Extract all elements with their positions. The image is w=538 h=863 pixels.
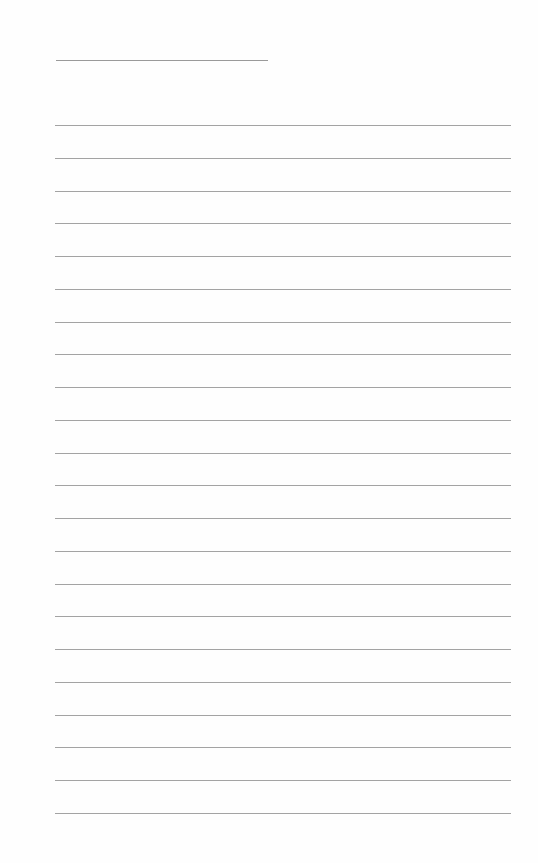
writing-line — [55, 453, 511, 454]
writing-line — [55, 813, 511, 814]
writing-line — [55, 518, 511, 519]
writing-line — [55, 125, 511, 126]
writing-line — [55, 322, 511, 323]
writing-line — [55, 191, 511, 192]
writing-line — [55, 289, 511, 290]
writing-line — [55, 616, 511, 617]
writing-line — [55, 420, 511, 421]
writing-line — [55, 223, 511, 224]
writing-line — [55, 682, 511, 683]
writing-line — [55, 747, 511, 748]
writing-line — [55, 649, 511, 650]
writing-line — [55, 551, 511, 552]
writing-line — [55, 158, 511, 159]
writing-line — [55, 354, 511, 355]
title-line — [56, 60, 268, 61]
writing-line — [55, 780, 511, 781]
writing-line — [55, 485, 511, 486]
writing-line — [55, 715, 511, 716]
writing-line — [55, 584, 511, 585]
writing-line — [55, 387, 511, 388]
writing-line — [55, 256, 511, 257]
lined-paper-page — [0, 0, 538, 863]
